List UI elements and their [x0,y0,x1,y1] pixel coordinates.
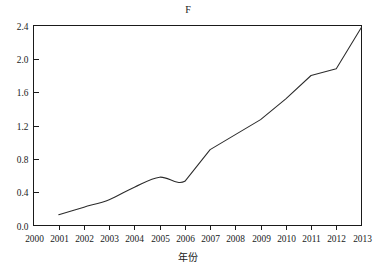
x-axis-ticks [60,226,337,230]
y-tick-label: 1.2 [17,122,29,132]
x-tick-label: 2001 [50,234,69,244]
chart-container: F 0.00.40.81.21.62.02.4 2000200120022003… [0,0,377,271]
x-tick-label: 2004 [125,234,144,244]
x-tick-label: 2013 [353,234,372,244]
x-tick-label: 2000 [25,234,44,244]
y-axis-tick-labels: 0.00.40.81.21.62.02.4 [17,22,29,232]
chart-title: F [185,4,191,15]
y-tick-label: 2.4 [17,22,29,32]
x-tick-label: 2007 [201,234,220,244]
x-tick-label: 2002 [75,234,94,244]
x-tick-label: 2011 [302,234,321,244]
x-tick-label: 2009 [252,234,271,244]
x-axis-tick-labels: 2000200120022003200420052006200720082009… [25,234,372,244]
x-tick-label: 2006 [176,234,195,244]
x-tick-label: 2003 [100,234,119,244]
data-series-line [59,27,362,215]
plot-frame [34,26,362,226]
x-tick-label: 2010 [277,234,296,244]
line-chart: F 0.00.40.81.21.62.02.4 2000200120022003… [0,0,377,271]
y-tick-label: 1.6 [17,88,29,98]
y-tick-label: 0.0 [17,222,29,232]
y-tick-label: 0.4 [17,188,29,198]
x-axis-title: 年份 [178,251,198,263]
x-tick-label: 2005 [151,234,170,244]
y-tick-label: 0.8 [17,155,29,165]
x-tick-label: 2012 [327,234,346,244]
x-tick-label: 2008 [226,234,245,244]
y-tick-label: 2.0 [17,55,29,65]
y-axis-ticks [34,60,39,193]
